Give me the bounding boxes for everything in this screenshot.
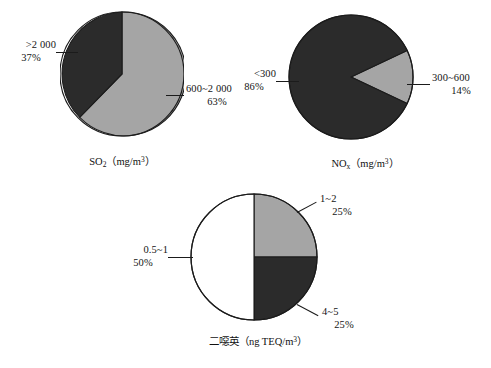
label-gt-2000: >2 000 37% bbox=[6, 38, 56, 64]
label-gt-2000-range: >2 000 bbox=[6, 38, 56, 51]
pie-chart-nox-graphic bbox=[288, 14, 414, 140]
leader-line-lt-300 bbox=[276, 81, 299, 82]
leader-line-gt-2000 bbox=[56, 52, 78, 53]
caption-nox-main: NO bbox=[331, 158, 346, 169]
slice-05-1 bbox=[191, 194, 254, 320]
label-05-1: 0.5~1 50% bbox=[118, 243, 168, 269]
label-1-2-range: 1~2 bbox=[320, 192, 364, 205]
caption-so2-main: SO bbox=[89, 156, 102, 167]
leader-line-05-1 bbox=[168, 257, 193, 258]
caption-nox-unit-close: ） bbox=[389, 158, 399, 169]
caption-dioxin: 二噁英（ng TEQ/m3） bbox=[178, 333, 338, 349]
caption-dioxin-main: 二噁英 bbox=[209, 336, 239, 347]
label-gt-2000-percent: 37% bbox=[6, 51, 56, 64]
caption-dioxin-unit-close: ） bbox=[297, 336, 307, 347]
label-4-5-range: 4~5 bbox=[322, 305, 366, 318]
leader-line-600-2000 bbox=[166, 95, 184, 96]
label-4-5: 4~5 25% bbox=[322, 305, 366, 331]
label-lt-300-percent: 86% bbox=[232, 80, 276, 93]
pie-chart-so2 bbox=[60, 8, 184, 140]
caption-so2: SO2（mg/m3） bbox=[52, 153, 192, 172]
caption-dioxin-unit-open: （ng TEQ/m bbox=[239, 336, 293, 347]
caption-nox-unit-open: （mg/m bbox=[350, 158, 385, 169]
label-300-600-range: 300~600 bbox=[432, 71, 490, 84]
label-300-600-percent: 14% bbox=[432, 84, 490, 97]
label-05-1-percent: 50% bbox=[118, 256, 168, 269]
caption-so2-unit-open: （mg/m bbox=[106, 156, 141, 167]
label-1-2: 1~2 25% bbox=[320, 192, 364, 218]
slice-1-2 bbox=[254, 194, 317, 257]
leader-line-300-600 bbox=[407, 84, 430, 85]
label-lt-300: <300 86% bbox=[232, 67, 276, 93]
label-lt-300-range: <300 bbox=[232, 67, 276, 80]
pie-chart-dioxin bbox=[190, 193, 318, 321]
caption-nox: NOx（mg/m3） bbox=[290, 155, 440, 174]
label-300-600: 300~600 14% bbox=[432, 71, 490, 97]
label-1-2-percent: 25% bbox=[320, 205, 364, 218]
caption-so2-unit-close: ） bbox=[145, 156, 155, 167]
pie-chart-nox bbox=[288, 14, 414, 140]
pie-chart-so2-graphic bbox=[60, 8, 184, 140]
label-600-2000-percent: 63% bbox=[186, 95, 248, 108]
figure-canvas: >2 000 37% 600~2 000 63% SO2（mg/m3） <300… bbox=[0, 0, 491, 368]
label-05-1-range: 0.5~1 bbox=[118, 243, 168, 256]
pie-chart-dioxin-graphic bbox=[190, 193, 318, 321]
label-4-5-percent: 25% bbox=[322, 318, 366, 331]
